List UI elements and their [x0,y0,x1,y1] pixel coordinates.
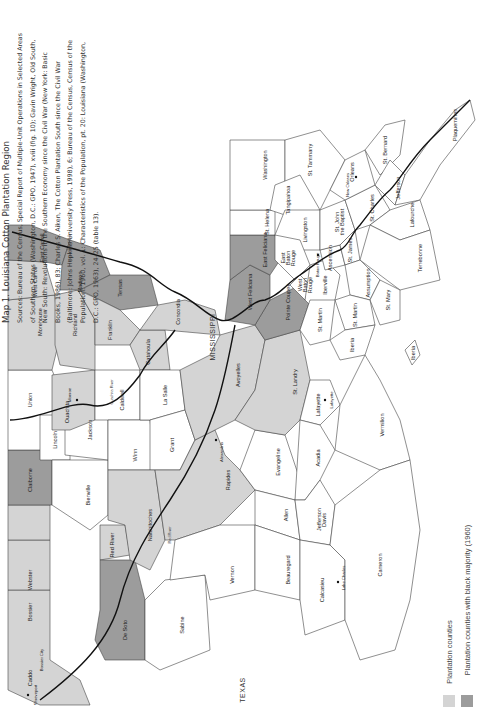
label-franklin: Franklin [107,320,113,340]
label-iberia-island: Iberia [410,346,416,360]
parish-vermilion [335,355,410,470]
city-shreveport: Shreveport [33,685,39,705]
label-concordia: Concordia [175,299,181,325]
label-west-baton-rouge: West Baton Rouge [298,275,313,295]
label-allen: Allen [283,509,289,521]
label-cameron: Cameron [377,553,383,576]
label-terrebonne: Terrebonne [417,244,423,272]
label-pointe-coupee: Pointe Coupee [285,283,291,320]
state-label-texas: TEXAS [240,677,246,702]
label-avoyelles: Avoyelles [235,363,241,387]
label-grant: Grant [169,438,175,452]
label-evangeline: Evangeline [275,448,281,476]
label-jefferson: Jefferson [395,177,401,200]
city-bossier-city: Bossier City [39,649,45,671]
label-acadia: Acadia [315,449,321,466]
parish-plaquemines [395,100,475,205]
parish-bienville [52,460,108,530]
label-tensas: Tensas [117,279,123,297]
label-livingston: Livingston [302,217,308,242]
label-st-john: St. John the Baptist [335,208,345,236]
city-baton-rouge: Baton Rouge [315,253,321,277]
label-east-feliciana: East Feliciana [262,232,268,267]
label-vermilion: Vermilion [379,413,385,436]
map-title: Map 1. Louisiana Cotton Plantation Regio… [1,33,11,323]
label-st-helena: St. Helena [264,209,270,235]
label-winn: Winn [132,449,138,462]
label-lincoln: Lincoln [52,431,58,449]
label-st-bernard: St. Bernard [382,136,388,164]
label-plaquemines: Plaquemines [452,109,458,141]
legend-swatch-black-majority [461,695,473,707]
label-west-feliciana: West Feliciana [247,274,253,311]
label-bienville: Bienville [85,485,91,506]
label-assumption: Assumption [365,268,371,297]
label-ouachita: Ouachita [64,401,70,423]
city-lake-charles: Lake Charles [341,566,347,591]
river-label-red: Red River [167,527,173,544]
river-label-ouachita: Ouachita River [109,379,115,404]
parish-caldwell [95,370,140,420]
label-jefferson-davis: Jefferson Davis [317,509,327,531]
label-union: Union [27,393,33,408]
label-sabine: Sabine [179,616,185,633]
label-st-landry: St. Landry [292,369,298,395]
label-natchitoches: Natchitoches [147,509,153,541]
label-west-carroll: West Carroll [32,267,38,298]
label-webster: Webster [27,570,33,591]
label-rapides: Rapides [225,470,231,491]
map-legend: Plantation counties Plantation counties … [438,560,488,710]
city-new-orleans: New Orleans [345,173,351,197]
label-beauregard: Beauregard [285,555,291,584]
map-caption: Map 1. Louisiana Cotton Plantation Regio… [1,33,133,323]
label-ascension: Ascension [327,245,333,271]
label-red-river: Red River [109,533,115,558]
label-iberville: Iberville [322,275,328,294]
label-washington: Washington [262,150,268,179]
label-jackson: Jackson [87,420,93,441]
label-east-baton-rouge: East Baton Rouge [281,248,296,268]
label-richland: Richland [72,314,78,336]
label-east-carroll: East Carroll [39,233,45,262]
label-claiborne: Claiborne [27,468,33,492]
label-madison: Madison [77,271,83,292]
label-catahoula: Catahoula [145,339,151,365]
label-bossier: Bossier [27,603,33,622]
city-alexandria: Alexandria [219,442,225,462]
label-calcasieu: Calcasieu [319,578,325,603]
parish-sabine [145,575,210,670]
label-morehouse: Morehouse [37,308,43,336]
legend-swatch-plantation [443,695,455,707]
parish-caddo [8,590,90,705]
city-lafayette: Lafayette [329,391,335,408]
state-label-mississippi: MISSISSIPPI [210,313,216,360]
label-iberia: Iberia [349,338,355,352]
parish-webster [8,505,50,540]
label-st-martin-upper: St. Martin [317,308,323,332]
label-vernon: Vernon [229,566,235,584]
label-st-james: St. James [347,238,353,263]
legend-label-black-majority: Plantation counties with black majority … [463,525,472,676]
label-st-tammany: St. Tammany [307,144,313,177]
map-sources: Sources: Bureau of the Census, Special R… [14,33,102,323]
label-de-soto: De Soto [122,620,128,640]
label-tangipahoa: Tangipahoa [285,186,291,215]
label-lafayette: Lafayette [315,393,321,416]
label-caldwell: Caldwell [119,389,125,410]
city-monroe: Monroe [67,388,73,402]
river-label-mississippi: Mississippi River [67,234,73,262]
label-la-salle: La Salle [162,385,168,405]
label-st-martin: St. Martin [352,303,358,327]
legend-label-plantation: Plantation counties [445,620,454,683]
label-st-mary: St. Mary [385,290,391,311]
label-st-charles: St. Charles [369,194,375,222]
label-lafourche: Lafourche [409,203,415,228]
parish-winn [108,420,155,470]
parish-de-soto [95,560,145,660]
